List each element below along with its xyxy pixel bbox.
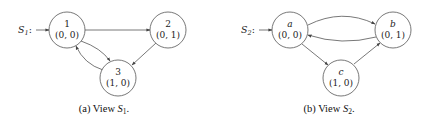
caption-a: (a) View S1. [79,103,129,116]
diagram-canvas: S1: 1 (0, 0) 2 (0, 1) 3 (1, 0) (a) View … [0,0,427,127]
start-label-s2: S2: [241,24,255,37]
caption-b: (b) View S2. [303,103,354,116]
node-value: (0, 0) [278,30,302,40]
edge-a-to-b [308,16,375,25]
node-value: (0, 1) [381,30,405,40]
state-node-2: 2 (0, 1) [150,12,186,48]
node-id: 2 [165,19,171,29]
node-id: 1 [64,19,70,29]
node-id: 3 [115,67,121,77]
state-node-1: 1 (0, 0) [49,12,85,48]
node-id: b [390,19,396,29]
node-value: (1, 0) [106,78,130,88]
figure-a: S1: 1 (0, 0) 2 (0, 1) 3 (1, 0) (a) View … [18,12,186,116]
edge-c-to-b [354,43,380,64]
node-value: (0, 0) [55,30,79,40]
node-id: a [287,19,292,29]
state-node-3: 3 (1, 0) [100,60,136,96]
state-node-a: a (0, 0) [272,12,308,48]
edge-1-to-3 [81,41,110,61]
node-value: (1, 0) [329,78,353,88]
edge-a-to-c [302,44,328,65]
node-id: c [338,67,343,77]
edge-b-to-a [308,35,376,41]
start-label-s1: S1: [18,24,32,37]
node-value: (0, 1) [156,30,180,40]
state-node-b: b (0, 1) [375,12,411,48]
edge-2-to-3 [132,43,156,65]
figure-b: S2: a (0, 0) b (0, 1) c (1, 0) (b) View … [241,12,411,116]
state-node-c: c (1, 0) [323,60,359,96]
